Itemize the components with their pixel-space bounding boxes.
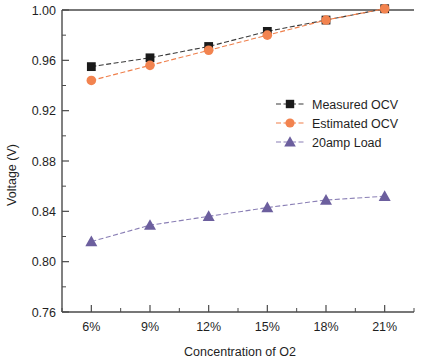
y-axis-title: Voltage (V) <box>5 144 19 206</box>
marker-circle <box>380 4 390 14</box>
marker-circle <box>204 45 214 55</box>
y-tick-label: 0.88 <box>32 155 56 169</box>
x-tick-label: 9% <box>141 320 159 334</box>
x-tick-label: 18% <box>313 320 338 334</box>
marker-circle <box>145 61 155 71</box>
legend-label: 20amp Load <box>312 136 382 150</box>
x-tick-label: 15% <box>255 320 280 334</box>
x-tick-label: 12% <box>196 320 221 334</box>
x-tick-label: 21% <box>372 320 397 334</box>
chart-figure: 0.760.800.840.880.920.961.00 6%9%12%15%1… <box>0 0 422 362</box>
y-tick-label: 0.80 <box>32 255 56 269</box>
marker-circle <box>285 118 294 127</box>
marker-square <box>87 62 96 71</box>
legend-label: Measured OCV <box>312 98 399 112</box>
y-tick-label: 0.96 <box>32 54 56 68</box>
marker-square <box>286 100 294 108</box>
marker-circle <box>87 76 97 86</box>
marker-circle <box>263 30 273 40</box>
y-tick-label: 0.92 <box>32 104 56 118</box>
marker-circle <box>321 15 331 25</box>
x-tick-label: 6% <box>82 320 100 334</box>
y-tick-label: 1.00 <box>32 4 56 18</box>
x-axis-title: Concentration of O2 <box>184 345 296 359</box>
legend-label: Estimated OCV <box>312 117 399 131</box>
voltage-vs-o2-concentration-chart: 0.760.800.840.880.920.961.00 6%9%12%15%1… <box>0 0 422 362</box>
y-tick-label: 0.84 <box>32 205 56 219</box>
y-tick-label: 0.76 <box>32 306 56 320</box>
